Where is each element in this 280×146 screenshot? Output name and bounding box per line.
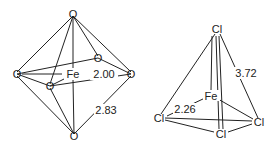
atom-cl-right: Cl — [254, 116, 264, 128]
atom-o-left: O — [13, 68, 22, 80]
label-fe-cl-distance: 2.26 — [174, 103, 195, 115]
label-fe-o-distance: 2.00 — [93, 68, 114, 80]
atom-cl-top: Cl — [212, 23, 222, 35]
atom-fe-octahedral: Fe — [67, 68, 80, 80]
atom-o-right: O — [127, 68, 136, 80]
atom-o-top: O — [69, 8, 78, 20]
tetrahedron-fecl4: Cl Cl Cl Cl Fe 2.26 3.72 — [154, 23, 264, 140]
atom-o-front: O — [46, 80, 55, 92]
label-cl-cl-distance: 3.72 — [235, 67, 256, 79]
octahedron-feo6: O O O O O O Fe 2.00 2.83 — [13, 8, 136, 142]
structures-diagram: O O O O O O Fe 2.00 2.83 Cl Cl Cl Cl F — [0, 0, 280, 146]
atom-fe-tetrahedral: Fe — [205, 90, 218, 102]
atom-cl-bottom: Cl — [216, 128, 226, 140]
atom-cl-left: Cl — [154, 112, 164, 124]
atom-o-bottom: O — [70, 130, 79, 142]
label-o-o-distance: 2.83 — [95, 104, 116, 116]
atom-o-back: O — [94, 52, 103, 64]
